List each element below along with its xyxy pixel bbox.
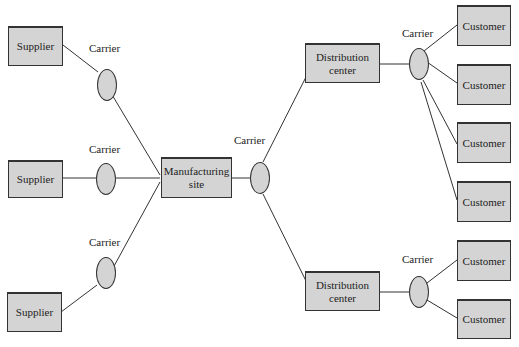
- distribution-center-node: Distribution center: [305, 271, 380, 311]
- supplier-label: Supplier: [17, 173, 54, 186]
- customer-label: Customer: [463, 255, 506, 268]
- customer-node: Customer: [457, 122, 511, 163]
- supplier-node: Supplier: [8, 26, 63, 66]
- carrier-node: [409, 48, 429, 80]
- distribution-center-label: Distribution center: [306, 279, 379, 305]
- carrier-label: Carrier: [89, 42, 120, 54]
- customer-label: Customer: [463, 196, 506, 209]
- carrier-node: [409, 276, 429, 308]
- manufacturing-label: Manufacturing site: [162, 165, 231, 191]
- customer-node: Customer: [457, 299, 511, 339]
- carrier-label: Carrier: [89, 236, 120, 248]
- carrier-node: [250, 162, 270, 194]
- carrier-node: [96, 163, 116, 195]
- supplier-label: Supplier: [17, 40, 54, 53]
- customer-label: Customer: [463, 137, 506, 150]
- supplier-node: Supplier: [7, 292, 62, 332]
- carrier-node: [96, 257, 116, 289]
- distribution-center-label: Distribution center: [306, 51, 379, 77]
- supplier-label: Supplier: [16, 306, 53, 319]
- customer-label: Customer: [463, 79, 506, 92]
- customer-node: Customer: [457, 5, 511, 46]
- customer-label: Customer: [463, 313, 506, 326]
- customer-node: Customer: [457, 64, 511, 105]
- distribution-center-node: Distribution center: [305, 43, 380, 83]
- manufacturing-site-node: Manufacturing site: [161, 157, 232, 198]
- carrier-label: Carrier: [402, 27, 433, 39]
- customer-node: Customer: [457, 240, 511, 281]
- carrier-node: [97, 69, 117, 101]
- supplier-node: Supplier: [8, 160, 63, 198]
- carrier-label: Carrier: [89, 143, 120, 155]
- carrier-label: Carrier: [402, 253, 433, 265]
- customer-label: Customer: [463, 20, 506, 33]
- customer-node: Customer: [457, 181, 511, 222]
- carrier-label: Carrier: [234, 134, 265, 146]
